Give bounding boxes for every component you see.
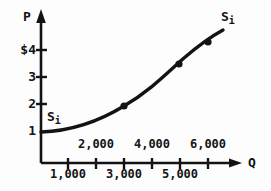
- x-tick-label-6000: 6,000: [180, 138, 236, 150]
- data-point-5000-3: [175, 60, 182, 67]
- supply-curve-si: [41, 30, 223, 132]
- y-tick-label-3: 3: [10, 70, 36, 83]
- curve-label-subscript: i: [229, 15, 235, 26]
- x-axis-label: Q: [248, 156, 256, 169]
- x-tick-label-5000: 5,000: [152, 168, 208, 180]
- x-tick-label-4000: 4,000: [124, 138, 180, 150]
- curve-label-si-upper: Si: [221, 10, 235, 23]
- data-point-6000-4: [204, 38, 211, 45]
- curve-label-si-lower: Si: [47, 110, 61, 123]
- x-tick-label-3000: 3,000: [96, 168, 152, 180]
- curve-label-base: S: [47, 109, 55, 124]
- curve-label-base: S: [221, 9, 229, 24]
- y-axis-label: P: [23, 10, 31, 23]
- arrow-up-icon: [36, 9, 46, 23]
- curve-label-subscript: i: [55, 115, 61, 126]
- y-tick-label-1: 1: [10, 124, 36, 137]
- chart-canvas: [0, 0, 271, 191]
- supply-curve-figure: P Q $4 3 2 1 2,000 4,000 6,000 1,000 3,0…: [0, 0, 271, 191]
- data-point-3000-2: [120, 102, 127, 109]
- arrow-right-icon: [229, 158, 242, 167]
- y-tick-label-4: $4: [10, 43, 36, 56]
- x-tick-label-1000: 1,000: [40, 168, 96, 180]
- x-tick-label-2000: 2,000: [68, 138, 124, 150]
- y-tick-label-2: 2: [10, 97, 36, 110]
